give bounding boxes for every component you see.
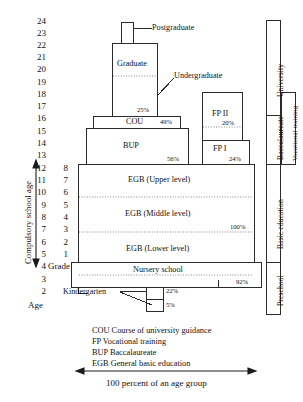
bup-label: BUP: [123, 142, 139, 150]
age-tick: 22: [30, 41, 46, 50]
nursery-label: Nursery school: [133, 266, 183, 274]
egb-lower-label: EGB (Lower level): [126, 245, 189, 253]
undergraduate-percent: 25%: [137, 107, 149, 114]
fp2-percent: 20%: [222, 120, 234, 127]
legend-item-cou: COU Course of university guidance: [92, 327, 211, 335]
nursery-percent: 92%: [236, 279, 248, 286]
postgraduate-label: Postgraduate: [152, 24, 194, 32]
education-system-diagram: 24 23 22 21 20 19 18 17 16 15 14 13 12 1…: [0, 0, 303, 402]
undergraduate-leader: [157, 78, 174, 96]
kindergarten-lower-step: [146, 299, 163, 311]
kindergarten-percent-upper: 22%: [166, 288, 178, 295]
side-label-university: University: [277, 64, 285, 97]
side-label-vocational-training: Vocational training: [292, 106, 299, 161]
side-label-basic-education: Basic education: [277, 199, 285, 249]
grade-axis-caption: Grade: [48, 262, 70, 271]
graduate-box: [112, 43, 157, 116]
legend-item-fp: FP Vocational training: [92, 338, 166, 346]
cou-label: COU: [126, 118, 143, 126]
age-tick: 19: [30, 78, 46, 87]
age-tick: 21: [30, 53, 46, 62]
side-label-preschool: Preschool: [277, 275, 285, 306]
age-group-width-arrow: [76, 368, 256, 374]
fp1-percent: 24%: [229, 156, 241, 163]
age-tick: 18: [30, 90, 46, 99]
age-tick: 14: [30, 139, 46, 148]
compulsory-school-age-label: Compulsory school age: [24, 181, 33, 264]
legend-item-bup: BUP Baccalaureate: [92, 349, 156, 357]
age-axis-caption: Age: [28, 301, 43, 310]
kindergarten-label: Kindergarten: [63, 288, 106, 296]
grade-tick: 6: [54, 188, 68, 197]
age-tick: 23: [30, 29, 46, 38]
egb-middle-label: EGB (Middle level): [125, 210, 190, 218]
kindergarten-percent-lower: 5%: [166, 302, 175, 309]
age-tick: 2: [30, 287, 46, 296]
age-tick: 15: [30, 127, 46, 136]
age-tick: 12: [30, 164, 46, 173]
graduate-label: Graduate: [117, 60, 147, 68]
age-tick: 17: [30, 102, 46, 111]
age-tick: 16: [30, 114, 46, 123]
grade-tick: 3: [54, 225, 68, 234]
grade-tick: 7: [54, 176, 68, 185]
grade-tick: 8: [54, 164, 68, 173]
fp2-label: FP II: [212, 110, 228, 118]
age-tick: 3: [30, 275, 46, 284]
undergraduate-label: Undergraduate: [174, 72, 223, 80]
grade-tick: 5: [54, 201, 68, 210]
age-tick: 13: [30, 151, 46, 160]
egb-upper-label: EGB (Upper level): [128, 176, 190, 184]
cou-percent: 49%: [160, 119, 172, 126]
bup-percent: 56%: [167, 156, 179, 163]
age-tick: 20: [30, 65, 46, 74]
grade-tick: 4: [54, 213, 68, 222]
legend-item-egb: EGB General basic education: [92, 360, 190, 368]
side-label-baccalaureate: Baccalaureate: [277, 116, 285, 160]
grade-tick: 2: [54, 238, 68, 247]
postgraduate-box: [121, 22, 133, 43]
kindergarten-leader-1: [120, 291, 146, 292]
egb-percent: 100%: [230, 224, 245, 231]
fp1-label: FP I: [213, 145, 227, 153]
grade-tick: 1: [54, 250, 68, 259]
age-group-caption: 100 percent of an age group: [106, 379, 207, 388]
age-tick: 24: [30, 17, 46, 26]
